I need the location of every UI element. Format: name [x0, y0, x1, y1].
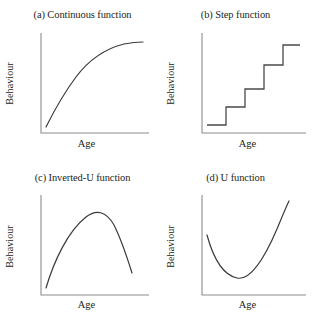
panel-c-axes — [41, 195, 149, 295]
panel-c-x-axis-label: Age — [24, 299, 149, 310]
panel-step-function: (b) Step function Behaviour Age — [157, 0, 314, 163]
panel-d-svg — [185, 195, 310, 297]
panel-b-y-axis-label: Behaviour — [161, 33, 179, 133]
panel-a-y-axis-label-text: Behaviour — [4, 62, 15, 105]
panel-b-axes — [202, 33, 306, 133]
panel-b-svg — [185, 33, 310, 135]
panel-inverted-u-function: (c) Inverted-U function Behaviour Age — [0, 163, 157, 325]
panel-a-axes — [41, 33, 149, 133]
panel-a-title: (a) Continuous function — [0, 8, 161, 21]
panel-d-y-axis-label-text: Behaviour — [165, 225, 176, 268]
panel-b-x-axis-label: Age — [185, 138, 310, 149]
panel-a-y-axis-label: Behaviour — [0, 33, 18, 133]
panel-d-curve — [207, 201, 289, 278]
panel-b-curve — [207, 45, 300, 125]
panel-c-curve — [46, 212, 132, 288]
panel-d-plot-area — [185, 195, 310, 297]
panel-c-y-axis-label-text: Behaviour — [4, 225, 15, 268]
panel-a-x-axis-label: Age — [24, 138, 149, 149]
panel-b-title: (b) Step function — [157, 8, 314, 21]
panel-continuous-function: (a) Continuous function Behaviour Age — [0, 0, 157, 163]
panel-c-svg — [24, 195, 149, 297]
panel-b-plot-area — [185, 33, 310, 135]
function-types-figure: (a) Continuous function Behaviour Age (b… — [0, 0, 314, 325]
panel-d-title: (d) U function — [157, 171, 314, 184]
panel-c-y-axis-label: Behaviour — [0, 196, 18, 296]
panel-d-y-axis-label: Behaviour — [161, 196, 179, 296]
panel-b-y-axis-label-text: Behaviour — [165, 62, 176, 105]
panel-u-function: (d) U function Behaviour Age — [157, 163, 314, 325]
panel-a-plot-area — [24, 33, 149, 135]
panel-c-plot-area — [24, 195, 149, 297]
panel-c-title: (c) Inverted-U function — [0, 171, 161, 184]
panel-d-x-axis-label: Age — [185, 299, 310, 310]
panel-a-curve — [46, 42, 143, 127]
panel-d-axes — [202, 195, 306, 295]
panel-a-svg — [24, 33, 149, 135]
